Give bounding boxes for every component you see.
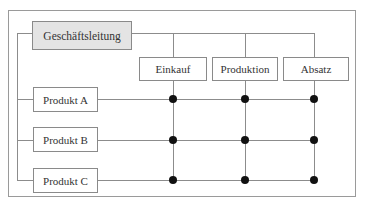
node-b-einkauf — [169, 136, 177, 144]
function-drop-produktion — [245, 33, 246, 57]
function-label: Einkauf — [156, 63, 191, 75]
node-a-absatz — [310, 95, 318, 103]
product-box-c: Produkt C — [33, 168, 98, 193]
node-b-absatz — [310, 136, 318, 144]
product-label: Produkt B — [43, 134, 88, 146]
function-box-einkauf: Einkauf — [139, 57, 207, 81]
product-row-a — [98, 99, 315, 100]
node-b-produktion — [241, 136, 249, 144]
product-stub-b — [17, 140, 33, 141]
product-row-b — [98, 140, 315, 141]
node-a-produktion — [241, 95, 249, 103]
product-stub-c — [17, 180, 33, 181]
management-left-connector — [17, 33, 33, 34]
function-label: Absatz — [301, 63, 332, 75]
management-top-bus-line — [131, 33, 314, 34]
management-box: Geschäftsleitung — [32, 21, 132, 50]
product-stub-a — [17, 99, 33, 100]
function-box-produktion: Produktion — [212, 57, 278, 81]
product-label: Produkt A — [43, 94, 88, 106]
node-c-absatz — [310, 176, 318, 184]
function-box-absatz: Absatz — [283, 57, 349, 81]
function-label: Produktion — [221, 63, 270, 75]
product-label: Produkt C — [43, 175, 88, 187]
function-drop-absatz — [314, 33, 315, 57]
management-label: Geschäftsleitung — [43, 30, 120, 42]
function-drop-einkauf — [173, 33, 174, 57]
product-box-a: Produkt A — [33, 87, 98, 112]
product-box-b: Produkt B — [33, 127, 98, 152]
matrix-organization-diagram: Geschäftsleitung Einkauf Produktion Absa… — [0, 0, 366, 212]
node-c-produktion — [241, 176, 249, 184]
product-row-c — [98, 180, 315, 181]
node-a-einkauf — [169, 95, 177, 103]
left-bus-line — [17, 33, 18, 181]
node-c-einkauf — [169, 176, 177, 184]
